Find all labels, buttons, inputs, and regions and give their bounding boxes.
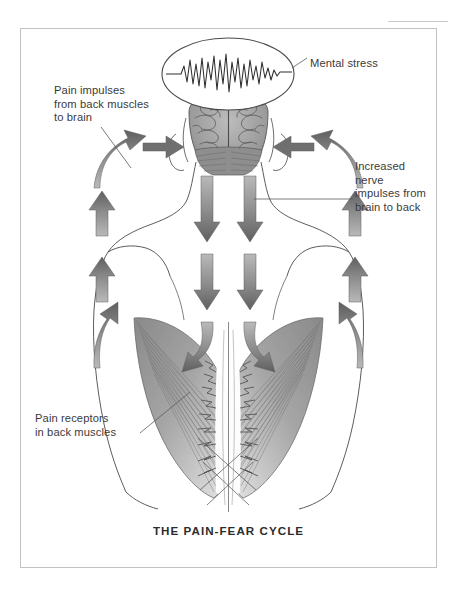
label-mental-stress: Mental stress xyxy=(310,57,378,71)
figure-caption: THE PAIN-FEAR CYCLE xyxy=(0,524,457,537)
curved-arrows-to-brain-right xyxy=(273,130,363,188)
label-pain-receptors: Pain receptors in back muscles xyxy=(35,412,116,439)
pain-fear-cycle-figure: Mental stress Pain impulses from back mu… xyxy=(0,0,457,593)
label-pain-impulses: Pain impulses from back muscles to brain xyxy=(54,84,149,125)
mental-stress-oval xyxy=(162,38,307,110)
label-increased-nerve-impulses: Increased nerve impulses from brain to b… xyxy=(355,160,426,214)
curved-arrows-to-brain-left xyxy=(94,130,184,188)
